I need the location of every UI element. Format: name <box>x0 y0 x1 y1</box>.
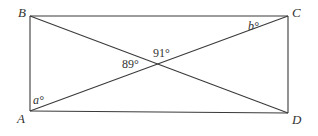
vertex-label-d: D <box>291 112 302 127</box>
rectangle-diagram: B C A D a° b° 89° 91° <box>0 0 318 136</box>
side-ad <box>30 111 288 113</box>
angle-91-label: 91° <box>153 46 170 60</box>
angle-89-label: 89° <box>122 57 139 71</box>
angle-a-label: a° <box>33 93 44 107</box>
vertex-label-a: A <box>16 111 25 126</box>
vertex-label-b: B <box>18 5 26 20</box>
vertex-label-c: C <box>292 5 301 20</box>
angle-b-label: b° <box>248 19 259 33</box>
